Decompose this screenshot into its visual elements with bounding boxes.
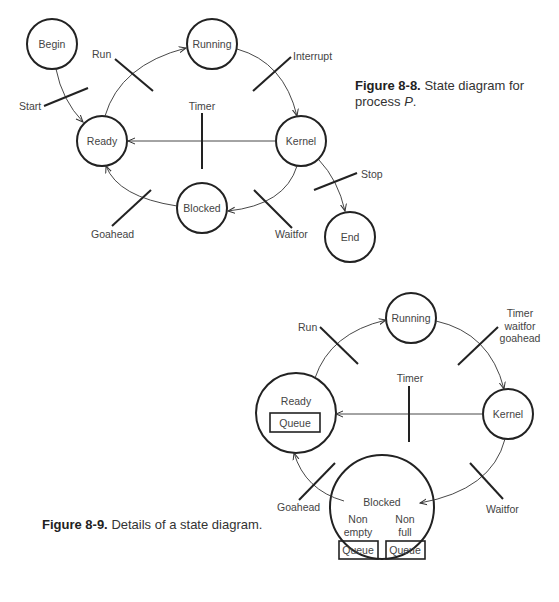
arc-ready-running bbox=[105, 48, 186, 116]
bar-stop bbox=[314, 173, 357, 190]
label-stop: Stop bbox=[361, 168, 383, 180]
state-ready-9: Ready Queue bbox=[256, 373, 336, 453]
nonempty-label-1: Non bbox=[348, 513, 367, 525]
state-begin-label: Begin bbox=[39, 38, 66, 50]
state-blocked-label: Blocked bbox=[183, 202, 221, 214]
state-kernel-9: Kernel bbox=[483, 389, 533, 439]
ready-queue-label: Queue bbox=[279, 417, 311, 429]
nonfull-label-2: full bbox=[398, 526, 411, 538]
figure-8-9-number: Figure 8-9. bbox=[42, 517, 108, 532]
state-running-9: Running bbox=[386, 293, 436, 343]
state-begin: Begin bbox=[27, 19, 77, 69]
nonfull-label-1: Non bbox=[395, 513, 414, 525]
state-running: Running bbox=[187, 19, 237, 69]
bar9-waitfor bbox=[470, 463, 503, 499]
label-waitfor: Waitfor bbox=[275, 228, 308, 240]
label-timer: Timer bbox=[189, 100, 216, 112]
label-start: Start bbox=[19, 100, 41, 112]
state-ready-label: Ready bbox=[87, 135, 118, 147]
bar9-goahead bbox=[299, 463, 335, 500]
figure-8-8-number: Figure 8-8. bbox=[355, 78, 421, 93]
label9-waitfor: Waitfor bbox=[486, 503, 519, 515]
arc9-blocked-ready bbox=[294, 453, 344, 501]
label-goahead: Goahead bbox=[91, 228, 134, 240]
label9-twg-1: Timer bbox=[507, 307, 534, 319]
nonfull-queue-label: Queue bbox=[389, 544, 421, 556]
label-interrupt: Interrupt bbox=[293, 50, 332, 62]
nonempty-queue-label: Queue bbox=[342, 544, 374, 556]
state-end-label: End bbox=[341, 231, 360, 243]
state-ready-9-label: Ready bbox=[281, 395, 312, 407]
state-kernel: Kernel bbox=[276, 116, 326, 166]
state-blocked-9-label: Blocked bbox=[363, 496, 401, 508]
figure-8-8-end: . bbox=[413, 94, 417, 109]
label9-timer: Timer bbox=[397, 372, 424, 384]
state-running-9-label: Running bbox=[391, 312, 430, 324]
state-ready: Ready bbox=[77, 116, 127, 166]
state-end: End bbox=[325, 212, 375, 262]
state-kernel-9-label: Kernel bbox=[493, 408, 523, 420]
figure-8-8-text-2: process bbox=[355, 94, 404, 109]
arc9-ready-running bbox=[315, 320, 386, 378]
label9-goahead: Goahead bbox=[277, 501, 320, 513]
figure-8-9-text: Details of a state diagram. bbox=[111, 517, 262, 532]
label9-twg-3: goahead bbox=[500, 332, 541, 344]
figure-8-8-caption: Figure 8-8. State diagram for process P. bbox=[355, 78, 559, 110]
state-blocked: Blocked bbox=[177, 183, 227, 233]
arc-kernel-blocked bbox=[228, 166, 297, 211]
bar-goahead bbox=[112, 190, 151, 226]
figure-8-8: Begin Running Ready Kernel Blocked End bbox=[19, 19, 383, 262]
figure-8-9-caption: Figure 8-9. Details of a state diagram. bbox=[42, 517, 302, 533]
label9-run: Run bbox=[298, 321, 317, 333]
nonempty-label-2: empty bbox=[344, 526, 373, 538]
label9-twg-2: waitfor bbox=[504, 320, 536, 332]
label-run: Run bbox=[92, 48, 111, 60]
figure-8-8-italic: P bbox=[404, 94, 413, 109]
state-running-label: Running bbox=[192, 38, 231, 50]
state-blocked-9: Blocked Non empty Non full Queue Queue bbox=[330, 455, 434, 559]
state-kernel-label: Kernel bbox=[286, 135, 316, 147]
figure-8-8-text: State diagram for bbox=[424, 78, 524, 93]
bar-start bbox=[44, 88, 88, 106]
bar-waitfor bbox=[254, 190, 292, 228]
